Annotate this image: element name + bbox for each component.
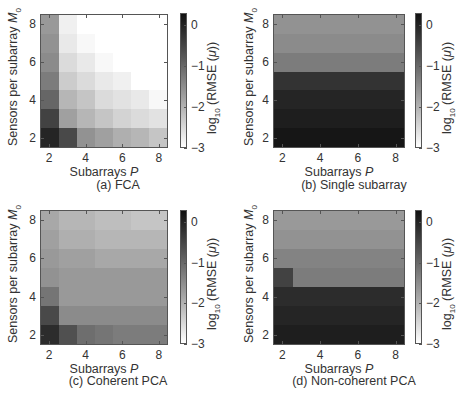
colorbar-tick-mark [184, 107, 187, 108]
heatmap-cell [385, 306, 404, 325]
heatmap-cell [77, 90, 95, 109]
heatmap-cell [77, 109, 95, 128]
x-tick-mark [86, 341, 87, 345]
heatmap-cell [293, 34, 312, 53]
heatmap-cell [385, 109, 404, 128]
colorbar-tick-label: −1 [191, 59, 205, 73]
y-tick-mark [401, 258, 405, 259]
heatmap-cell [330, 230, 349, 249]
heatmap-panel-a: 24688642Sensors per subarray M0Subarrays… [0, 0, 236, 200]
x-tick-label: 8 [149, 151, 169, 165]
heatmap-cell [149, 34, 167, 53]
heatmap-cell [131, 249, 149, 268]
heatmap-cell [367, 306, 386, 325]
heatmap-cell [367, 325, 386, 344]
heatmap-cell [113, 90, 131, 109]
x-tick-mark [320, 341, 321, 345]
y-tick-label: 6 [22, 251, 36, 265]
y-tick-mark [401, 138, 405, 139]
y-tick-mark [273, 258, 277, 259]
heatmap-cell [77, 287, 95, 306]
heatmap-cell [131, 230, 149, 249]
x-tick-mark [320, 210, 321, 214]
heatmap-cell [131, 128, 149, 147]
x-tick-mark [49, 14, 50, 18]
heatmap-cell [348, 90, 367, 109]
heatmap-cell [77, 268, 95, 287]
x-tick-mark [49, 210, 50, 214]
heatmap-cell [293, 128, 312, 147]
colorbar-tick-mark [184, 263, 187, 264]
colorbar-tick-mark [419, 222, 422, 223]
colorbar-tick-label: −3 [191, 141, 205, 155]
heatmap-cell [59, 34, 77, 53]
colorbar-tick-mark [184, 303, 187, 304]
x-tick-label: 6 [348, 348, 368, 362]
heatmap-cell [113, 249, 131, 268]
colorbar-tick-label: −3 [426, 141, 440, 155]
y-tick-mark [164, 258, 168, 259]
heatmap-cell [367, 34, 386, 53]
heatmap-cell [367, 15, 386, 34]
x-tick-mark [282, 14, 283, 18]
heatmap-cell [41, 230, 59, 249]
y-tick-label: 4 [22, 93, 36, 107]
x-tick-mark [358, 341, 359, 345]
x-tick-mark [122, 210, 123, 214]
x-tick-label: 2 [39, 348, 59, 362]
heatmap-cell [59, 249, 77, 268]
x-tick-label: 2 [272, 151, 292, 165]
colorbar-tick-label: −2 [426, 296, 440, 310]
heatmap-cell [330, 249, 349, 268]
x-tick-mark [320, 14, 321, 18]
heatmap-cell [113, 109, 131, 128]
y-tick-mark [40, 220, 44, 221]
heatmap-cell [293, 90, 312, 109]
colorbar-tick-label: 0 [191, 215, 198, 229]
heatmap-cell [131, 325, 149, 344]
y-tick-mark [273, 220, 277, 221]
heatmap-cell [41, 109, 59, 128]
x-tick-label: 4 [310, 151, 330, 165]
heatmap-cell [131, 15, 149, 34]
heatmap-cell [311, 109, 330, 128]
colorbar-tick-mark [419, 263, 422, 264]
heatmap-cell [330, 287, 349, 306]
x-tick-mark [282, 341, 283, 345]
heatmap-cell [77, 72, 95, 91]
heatmap-cell [367, 72, 386, 91]
x-tick-mark [320, 144, 321, 148]
colorbar-label: log10 (RMSE (μ)) [440, 42, 457, 134]
heatmap-cell [274, 72, 293, 91]
x-tick-mark [396, 210, 397, 214]
heatmap-cell [113, 34, 131, 53]
y-tick-mark [164, 62, 168, 63]
heatmap-cell [367, 128, 386, 147]
y-tick-label: 2 [22, 328, 36, 342]
heatmap-cell [113, 230, 131, 249]
colorbar-tick-label: −2 [191, 296, 205, 310]
x-tick-label: 6 [348, 151, 368, 165]
heatmap-cell [367, 90, 386, 109]
heatmap-cell [95, 230, 113, 249]
x-tick-mark [159, 210, 160, 214]
x-tick-mark [49, 144, 50, 148]
heatmap-cell [330, 15, 349, 34]
y-tick-mark [40, 24, 44, 25]
x-axis-label: Subarrays P [39, 165, 169, 179]
heatmap-plot-area [273, 14, 405, 148]
heatmap-cell [77, 249, 95, 268]
heatmap-cell [330, 53, 349, 72]
heatmap-cell [330, 306, 349, 325]
heatmap-cell [293, 325, 312, 344]
y-axis-label: Sensors per subarray M0 [6, 8, 23, 146]
heatmap-cell [293, 268, 312, 287]
heatmap-cell [385, 72, 404, 91]
x-tick-mark [358, 14, 359, 18]
heatmap-cell [330, 325, 349, 344]
y-tick-mark [401, 100, 405, 101]
y-tick-mark [401, 24, 405, 25]
y-tick-mark [401, 335, 405, 336]
x-tick-mark [159, 14, 160, 18]
heatmap-cell [330, 109, 349, 128]
